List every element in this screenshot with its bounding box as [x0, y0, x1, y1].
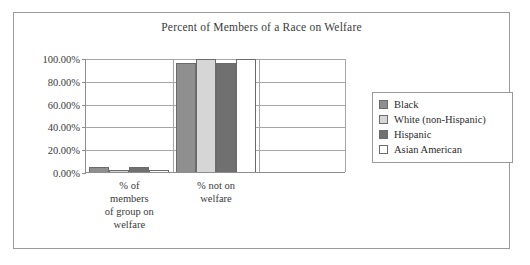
bar [236, 59, 256, 172]
legend-swatch-icon [379, 100, 388, 109]
bar [176, 63, 196, 172]
legend-item-label: Asian American [394, 144, 462, 155]
bar-group: % not onwelfare [173, 59, 260, 172]
bar-group: % ofmembersof group onwelfare [86, 59, 173, 172]
x-axis-category-label-line: welfare [173, 192, 260, 205]
chart-title: Percent of Members of a Race on Welfare [14, 21, 509, 33]
legend-swatch-icon [379, 115, 388, 124]
category-divider [259, 59, 260, 172]
bar [196, 59, 216, 172]
x-axis-category-label: % not onwelfare [173, 179, 260, 205]
x-axis-category-label: % ofmembersof group onwelfare [86, 179, 173, 231]
legend-swatch-icon [379, 145, 388, 154]
legend-item-label: Hispanic [394, 129, 431, 140]
chart-legend: BlackWhite (non-Hispanic)HispanicAsian A… [372, 92, 513, 163]
category-divider [345, 59, 346, 172]
bar [129, 167, 149, 172]
bar-group-bars [173, 59, 260, 172]
bar [216, 63, 236, 172]
y-axis-tick-label: 40.00% [48, 122, 80, 133]
y-axis-tick-label: 60.00% [48, 99, 80, 110]
legend-item[interactable]: Black [379, 97, 506, 112]
x-axis-category-label-line: members [86, 192, 173, 205]
legend-item-label: Black [394, 99, 419, 110]
plot-area: 100.00%80.00%60.00%40.00%20.00%0.00% % o… [85, 59, 345, 173]
y-axis-tick [82, 173, 86, 174]
chart-frame: Percent of Members of a Race on Welfare … [13, 12, 510, 249]
legend-item[interactable]: White (non-Hispanic) [379, 112, 506, 127]
legend-item-label: White (non-Hispanic) [394, 114, 486, 125]
y-axis-tick-label: 0.00% [53, 168, 80, 179]
bar [109, 170, 129, 172]
legend-item[interactable]: Hispanic [379, 127, 506, 142]
y-axis-tick-label: 80.00% [48, 76, 80, 87]
bar [149, 170, 169, 172]
bar-group-bars [86, 59, 173, 172]
legend-item[interactable]: Asian American [379, 142, 506, 157]
y-axis-tick-label: 100.00% [42, 54, 80, 65]
x-axis-category-label-line: % of [86, 179, 173, 192]
y-axis-tick-label: 20.00% [48, 145, 80, 156]
x-axis-category-label-line: welfare [86, 218, 173, 231]
legend-swatch-icon [379, 130, 388, 139]
x-axis-category-label-line: of group on [86, 205, 173, 218]
bar [89, 167, 109, 172]
x-axis-category-label-line: % not on [173, 179, 260, 192]
bar-group-empty [259, 59, 346, 172]
